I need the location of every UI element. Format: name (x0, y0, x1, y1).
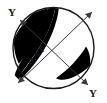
diagram-canvas: Y Y O.A.P (0, 0, 107, 103)
label-y-bottom-right: Y (89, 87, 97, 99)
label-y-top-left: Y (8, 6, 16, 18)
figure-root: Y Y O.A.P (0, 0, 107, 103)
